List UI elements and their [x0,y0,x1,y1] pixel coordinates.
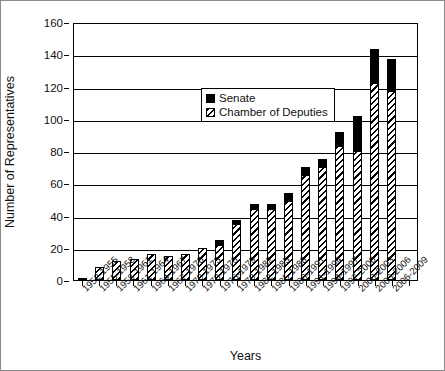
legend-item-senate: Senate [206,92,328,104]
x-tick-label-slot: 1967-1970 [159,286,176,348]
stacked-bar [370,49,379,280]
y-tick-label-160: 160 [44,17,63,29]
x-tick-label-slot: 1988-1991 [280,286,297,348]
y-tick-label-60: 60 [50,178,63,190]
x-tick-label-slot: 1979-1982 [228,286,245,348]
y-axis-tick-labels: 020406080100120140160 [1,23,69,281]
bar-slot [280,24,297,280]
x-tick-label-slot: 1976-1979 [211,286,228,348]
y-tick-mark-160 [64,23,69,24]
bar-slot [108,24,125,280]
y-tick-mark-20 [64,249,69,250]
bar-segment-senate [387,59,396,91]
legend-label-chamber-of-deputies: Chamber of Deputies [219,106,328,118]
bar-slot [246,24,263,280]
bar-slot [74,24,91,280]
x-tick-label-slot: 2006-2009 [384,286,401,348]
bar-segment-senate [353,116,362,151]
y-tick-label-20: 20 [50,243,63,255]
x-tick-label-slot: 1952-1955 [73,286,90,348]
x-tick-label-slot: 1955-1958 [90,286,107,348]
x-tick-label-slot: 1964-1967 [142,286,159,348]
x-tick-label-slot: 2000-2003 [349,286,366,348]
y-tick-label-120: 120 [44,82,63,94]
bar-segment-senate [284,193,293,201]
bar-slot [228,24,245,280]
y-tick-mark-140 [64,55,69,56]
x-tick-label-slot [401,286,418,348]
bar-slot [366,24,383,280]
chamber-swatch-icon [206,108,215,117]
x-tick-label-slot: 1970-1973 [177,286,194,348]
bar-slot [177,24,194,280]
x-tick-label-slot: 1961-1964 [125,286,142,348]
x-tick-label-slot: 1982-1985 [246,286,263,348]
x-tick-label-slot: 1985-1988 [263,286,280,348]
y-tick-mark-100 [64,120,69,121]
y-tick-mark-40 [64,217,69,218]
bar-slot [160,24,177,280]
x-tick-label-slot: 1958-1961 [108,286,125,348]
x-tick-label-slot: 1994-1997 [315,286,332,348]
legend: Senate Chamber of Deputies [201,88,335,122]
y-tick-mark-80 [64,152,69,153]
bar-slot [211,24,228,280]
bar-slot [331,24,348,280]
x-tick-label-slot: 2003-2006 [366,286,383,348]
y-tick-mark-60 [64,184,69,185]
bar-slot [263,24,280,280]
bar-slot [400,24,417,280]
bar-slot [194,24,211,280]
bar-segment-senate [370,49,379,83]
x-axis-tick-labels: 1952-19551955-19581958-19611961-19641964… [73,286,418,348]
y-tick-label-0: 0 [57,275,63,287]
senate-swatch-icon [206,94,215,103]
y-tick-mark-0 [64,281,69,282]
bar-group [74,24,417,280]
stacked-bar [387,59,396,280]
bar-slot [383,24,400,280]
bar-slot [314,24,331,280]
bar-segment-senate [301,167,310,175]
y-tick-label-80: 80 [50,146,63,158]
y-tick-label-100: 100 [44,114,63,126]
y-tick-label-40: 40 [50,211,63,223]
bar-slot [297,24,314,280]
x-tick-label-slot: 1991-1994 [297,286,314,348]
plot-area: Senate Chamber of Deputies [73,23,418,281]
bar-slot [91,24,108,280]
x-axis-title: Years [73,349,418,363]
y-tick-mark-120 [64,88,69,89]
legend-label-senate: Senate [219,92,255,104]
bar-slot [349,24,366,280]
bar-segment-senate [335,132,344,147]
bar-segment-chamber-of-deputies [370,83,379,280]
x-tick-label-slot: 1973-1976 [194,286,211,348]
y-tick-label-140: 140 [44,49,63,61]
bar-segment-chamber-of-deputies [387,91,396,280]
chart-frame: Number of Representatives 02040608010012… [0,0,445,371]
bar-slot [143,24,160,280]
bar-segment-senate [318,159,327,167]
x-tick-label-slot: 1997-2000 [332,286,349,348]
bar-slot [125,24,142,280]
legend-item-chamber-of-deputies: Chamber of Deputies [206,106,328,118]
